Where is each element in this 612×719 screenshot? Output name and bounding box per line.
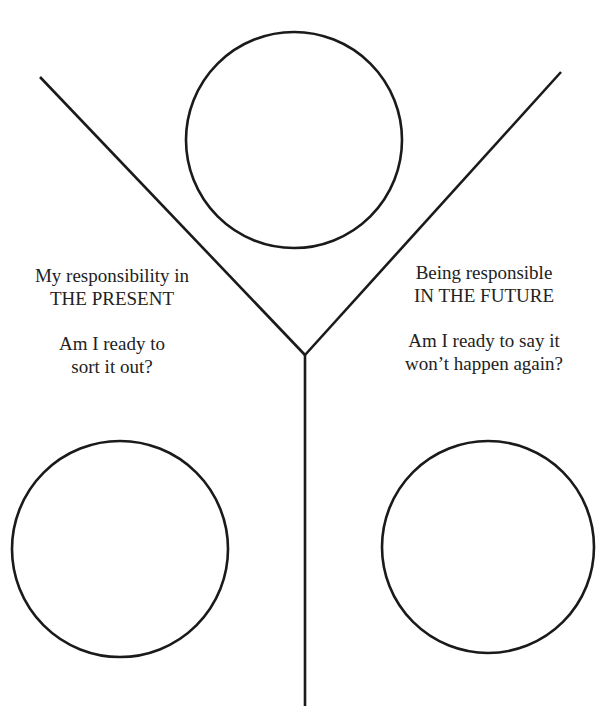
present-heading-line-2: THE PRESENT bbox=[12, 287, 212, 310]
present-question-line-2: sort it out? bbox=[12, 355, 212, 378]
bottom-left-circle bbox=[12, 441, 228, 657]
top-circle bbox=[186, 32, 402, 248]
future-question-line-2: won’t happen again? bbox=[384, 352, 584, 375]
future-heading-line-2: IN THE FUTURE bbox=[384, 284, 584, 307]
present-responsibility-label: My responsibility in THE PRESENT Am I re… bbox=[12, 264, 212, 378]
bottom-right-circle bbox=[382, 441, 594, 653]
future-question-line-1: Am I ready to say it bbox=[384, 329, 584, 352]
future-responsibility-label: Being responsible IN THE FUTURE Am I rea… bbox=[384, 261, 584, 375]
spacer bbox=[384, 307, 584, 329]
present-question-line-1: Am I ready to bbox=[12, 332, 212, 355]
spacer bbox=[12, 310, 212, 332]
future-heading-line-1: Being responsible bbox=[384, 261, 584, 284]
present-heading-line-1: My responsibility in bbox=[12, 264, 212, 287]
